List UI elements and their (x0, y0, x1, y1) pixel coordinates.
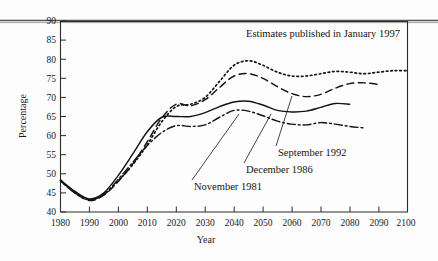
x-tick-label: 1990 (80, 218, 99, 228)
y-axis-title: Percentage (17, 94, 28, 138)
series-label-november-1981: November 1981 (194, 181, 262, 192)
x-tick-label: 2030 (196, 218, 215, 228)
x-tick-label: 2090 (369, 218, 388, 228)
x-tick-label: 2070 (312, 218, 331, 228)
x-tick-label: 2050 (254, 218, 273, 228)
chart-note: Estimates published in January 1997 (246, 28, 400, 39)
y-tick-label: 55 (47, 150, 57, 160)
y-tick-label: 40 (47, 207, 57, 217)
y-tick-label: 75 (47, 74, 57, 84)
y-tick-label: 80 (47, 55, 57, 65)
x-tick-label: 1980 (51, 218, 70, 228)
y-tick-label: 50 (47, 169, 57, 179)
y-tick-label: 90 (47, 16, 57, 26)
series-label-september-1992: September 1992 (278, 147, 347, 158)
chart-canvas: 40 45 50 55 60 65 70 75 80 85 90 (0, 0, 438, 261)
y-tick-label: 85 (47, 35, 57, 45)
x-tick-label: 2000 (109, 218, 128, 228)
y-tick-label: 45 (47, 188, 57, 198)
y-tick-label: 70 (47, 93, 57, 103)
x-tick-label: 2060 (283, 218, 302, 228)
y-tick-label: 60 (47, 131, 57, 141)
x-axis-title: Year (197, 234, 216, 245)
x-tick-label: 2040 (225, 218, 244, 228)
x-tick-label: 2010 (138, 218, 157, 228)
x-tick-label: 2100 (397, 218, 416, 228)
series-label-december-1986: December 1986 (246, 164, 313, 175)
x-tick-label: 2020 (167, 218, 186, 228)
x-tick-label: 2080 (341, 218, 360, 228)
chart-figure: 40 45 50 55 60 65 70 75 80 85 90 (0, 0, 438, 261)
y-tick-label: 65 (47, 112, 57, 122)
